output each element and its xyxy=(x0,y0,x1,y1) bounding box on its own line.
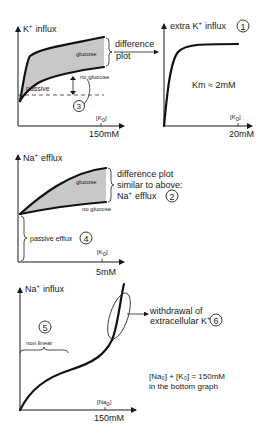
svg-text:4: 4 xyxy=(84,234,89,244)
svg-text:similar to above:: similar to above: xyxy=(117,180,183,190)
difference-brace xyxy=(108,168,114,202)
panel-extra-k-influx: extra K+influx 1 Km ≈ 2mM [K0] 20mM xyxy=(164,20,254,139)
svg-text:difference: difference xyxy=(115,39,154,49)
svg-text:no glucose: no glucose xyxy=(80,74,110,80)
y-axis-label: Na+efflux xyxy=(23,152,63,163)
pointer-3 xyxy=(84,79,90,104)
svg-text:Km ≈ 2mM: Km ≈ 2mM xyxy=(192,80,235,90)
x-axis-label: [K0] xyxy=(97,249,108,257)
na-influx-curve xyxy=(20,284,124,410)
svg-text:20mM: 20mM xyxy=(229,129,254,139)
svg-text:3: 3 xyxy=(77,102,82,111)
svg-text:withdrawal of: withdrawal of xyxy=(149,306,203,316)
panel-na-influx: Na+influx 5 non linear withdrawal of ext… xyxy=(20,283,222,423)
svg-text:no glucose: no glucose xyxy=(82,206,112,212)
svg-text:passive efflux: passive efflux xyxy=(30,235,73,243)
difference-brace xyxy=(106,38,112,66)
footnote-line2: in the bottom graph xyxy=(149,382,218,391)
y-axis-label: extra K+influx xyxy=(170,20,227,31)
svg-text:passive: passive xyxy=(26,85,50,93)
svg-text:glucose: glucose xyxy=(76,179,97,185)
passive-brace xyxy=(21,216,27,261)
y-axis-label: Na+influx xyxy=(25,283,65,294)
na-efflux-label: Na+efflux xyxy=(117,190,157,201)
svg-text:2: 2 xyxy=(170,192,175,202)
withdrawal-line2: extracellular K+ xyxy=(150,315,211,326)
svg-text:glucose: glucose xyxy=(76,51,97,57)
panel-na-efflux: glucose no glucose Na+efflux difference … xyxy=(18,152,183,277)
nonlinear-brace xyxy=(20,347,68,353)
svg-text:150mM: 150mM xyxy=(89,129,119,139)
panel-k-influx: 3 passive glucose no glucose K+influx [K… xyxy=(18,23,158,139)
svg-text:5: 5 xyxy=(43,323,48,333)
x-axis-label: [Na0] xyxy=(97,399,112,407)
y-axis-label: K+influx xyxy=(23,23,57,34)
svg-text:5mM: 5mM xyxy=(96,267,116,277)
svg-text:plot: plot xyxy=(116,51,131,61)
svg-text:1: 1 xyxy=(241,22,246,32)
x-axis-label: [K0] xyxy=(230,114,241,122)
svg-text:150mM: 150mM xyxy=(94,413,124,423)
svg-text:6: 6 xyxy=(214,316,219,326)
x-axis-label: [K0] xyxy=(96,115,107,123)
svg-text:difference plot: difference plot xyxy=(117,169,174,179)
footnote-line1: [Na₀] + [K₀] = 150mM xyxy=(149,372,225,381)
diagram-canvas: 3 passive glucose no glucose K+influx [K… xyxy=(0,0,266,442)
svg-text:non linear: non linear xyxy=(26,340,52,346)
